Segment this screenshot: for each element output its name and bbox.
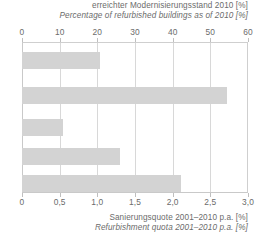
bar bbox=[22, 119, 63, 136]
bottom-tick-label: 1,5 bbox=[129, 197, 141, 207]
top-tick-mark bbox=[135, 38, 136, 42]
bottom-axis-caption-english: Refurbishment quota 2001–2010 p.a. [%] bbox=[95, 223, 248, 233]
bar bbox=[22, 87, 227, 104]
bottom-axis-caption: Sanierungsquote 2001–2010 p.a. [%] Refur… bbox=[95, 213, 248, 232]
top-tick-mark bbox=[248, 38, 249, 42]
top-tick-label: 60 bbox=[243, 27, 253, 37]
top-tick-label: 40 bbox=[168, 27, 178, 37]
bottom-axis-caption-german: Sanierungsquote 2001–2010 p.a. [%] bbox=[95, 213, 248, 223]
bar bbox=[22, 52, 100, 69]
plot-area bbox=[22, 42, 248, 193]
bottom-tick-label: 2,0 bbox=[167, 197, 179, 207]
bottom-tick-label: 0 bbox=[20, 197, 25, 207]
bottom-axis-tick-labels: 00,51,01,52,02,53,0 bbox=[0, 197, 268, 209]
top-axis-caption-english: Percentage of refurbished buildings as o… bbox=[60, 11, 248, 21]
top-axis-caption-german: erreichter Modernisierungsstand 2010 [%] bbox=[60, 1, 248, 11]
top-axis-caption: erreichter Modernisierungsstand 2010 [%]… bbox=[60, 1, 248, 20]
bar bbox=[22, 175, 181, 192]
bar-series bbox=[22, 42, 248, 193]
bottom-tick-label: 3,0 bbox=[242, 197, 254, 207]
top-tick-mark bbox=[97, 38, 98, 42]
top-tick-mark bbox=[210, 38, 211, 42]
top-axis-tick-labels: 0102030405060 bbox=[0, 27, 268, 39]
bar bbox=[22, 148, 120, 165]
top-tick-label: 30 bbox=[130, 27, 140, 37]
top-tick-label: 20 bbox=[93, 27, 103, 37]
bottom-tick-label: 1,0 bbox=[91, 197, 103, 207]
top-tick-mark bbox=[22, 38, 23, 42]
top-tick-mark bbox=[60, 38, 61, 42]
top-tick-mark bbox=[173, 38, 174, 42]
bottom-tick-label: 2,5 bbox=[204, 197, 216, 207]
bar-chart-figure: erreichter Modernisierungsstand 2010 [%]… bbox=[0, 0, 268, 237]
top-tick-label: 50 bbox=[206, 27, 216, 37]
top-tick-label: 0 bbox=[20, 27, 25, 37]
top-tick-label: 10 bbox=[55, 27, 65, 37]
bottom-tick-label: 0,5 bbox=[54, 197, 66, 207]
